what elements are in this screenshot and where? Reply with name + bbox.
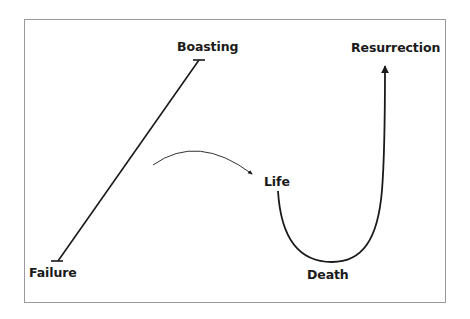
label-life: Life — [264, 176, 290, 189]
life-death-resurrection-curve — [278, 66, 385, 262]
label-failure: Failure — [29, 267, 77, 280]
boasting-failure-line — [51, 60, 205, 261]
label-death: Death — [307, 269, 349, 282]
label-resurrection: Resurrection — [351, 42, 440, 55]
label-boasting: Boasting — [177, 41, 238, 54]
transition-arc-arrow — [153, 151, 252, 174]
